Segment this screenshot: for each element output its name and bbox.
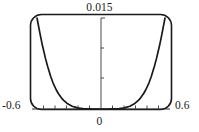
plot-figure: 0.015 -0.6 0.6 0 <box>0 0 199 132</box>
x-min-label: -0.6 <box>2 100 21 112</box>
y-axis <box>101 18 105 109</box>
plot-canvas <box>0 0 199 132</box>
y-max-label: 0.015 <box>0 2 199 14</box>
x-zero-label: 0 <box>0 116 199 128</box>
x-max-label: 0.6 <box>175 100 190 112</box>
